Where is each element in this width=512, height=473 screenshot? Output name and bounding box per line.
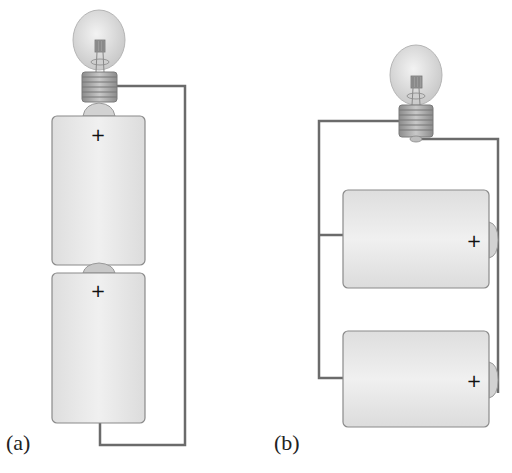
battery-terminal-icon bbox=[489, 222, 498, 258]
panel-b: + + bbox=[319, 45, 498, 427]
panel-b-label: (b) bbox=[274, 430, 300, 456]
battery-terminal-icon bbox=[489, 362, 498, 398]
panel-a: + + bbox=[52, 10, 185, 445]
circuit-diagram: + + bbox=[0, 0, 512, 473]
panel-a-label: (a) bbox=[6, 430, 30, 456]
plus-label: + bbox=[466, 370, 481, 391]
plus-label: + bbox=[90, 124, 105, 145]
battery-terminal-icon bbox=[83, 103, 115, 116]
plus-label: + bbox=[90, 280, 105, 301]
light-bulb-icon bbox=[73, 10, 125, 102]
light-bulb-icon bbox=[390, 45, 442, 142]
plus-label: + bbox=[466, 230, 481, 251]
